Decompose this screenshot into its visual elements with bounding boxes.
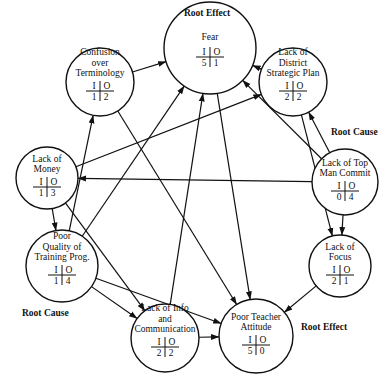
- io-header-in: I: [202, 47, 205, 57]
- node-info: Lack of InfoandCommunicationIO22: [131, 303, 199, 372]
- edge-money-to-training: [52, 209, 56, 231]
- node-label: Lack of: [325, 242, 355, 252]
- nodes-layer: FearIO51ConfusionoverTerminologyIO12Lack…: [16, 2, 378, 373]
- io-header-in: I: [54, 265, 57, 275]
- node-label: Poor: [53, 231, 72, 241]
- out-count: 1: [344, 276, 349, 286]
- interrelationship-digraph: FearIO51ConfusionoverTerminologyIO12Lack…: [0, 0, 390, 376]
- out-count: 3: [51, 188, 56, 198]
- edge-confusion-to-teacher: [118, 111, 237, 304]
- node-training: PoorQuality ofTraining Prog.IO14: [26, 230, 98, 302]
- node-label: Money: [34, 164, 61, 174]
- io-header-out: O: [66, 265, 73, 275]
- node-label: and: [158, 314, 172, 324]
- io-header-out: O: [349, 181, 356, 191]
- io-header-in: I: [285, 81, 288, 91]
- io-header-out: O: [169, 337, 176, 347]
- annotation-root-effect-bottom: Root Effect: [301, 322, 348, 332]
- node-money: Lack ofMoneyIO13: [16, 147, 78, 209]
- io-header-out: O: [297, 81, 304, 91]
- node-confusion: ConfusionoverTerminologyIO12: [66, 47, 134, 116]
- in-count: 2: [332, 276, 337, 286]
- node-label: over: [92, 58, 110, 68]
- in-count: 0: [337, 192, 342, 202]
- io-header-in: I: [248, 335, 251, 345]
- node-top-man: Lack of TopMan CommitIO04: [312, 149, 378, 215]
- in-count: 2: [285, 92, 290, 102]
- edge-strategic-plan-to-fear: [253, 65, 262, 69]
- node-label: Lack of: [278, 47, 308, 57]
- out-count: 4: [66, 276, 71, 286]
- node-label: Lack of Top: [322, 158, 368, 168]
- annotation-root-cause-right: Root Cause: [331, 127, 378, 137]
- node-label: Fear: [202, 32, 220, 42]
- out-count: 1: [214, 58, 219, 68]
- node-label: Terminology: [76, 68, 125, 78]
- node-label: Training Prog.: [34, 252, 89, 262]
- node-label: Man Commit: [320, 168, 371, 178]
- node-label: Focus: [329, 252, 352, 262]
- in-count: 1: [39, 188, 44, 198]
- node-teacher: Poor TeacherAttitudeIO50: [219, 299, 293, 373]
- in-count: 5: [202, 58, 207, 68]
- edge-confusion-to-fear: [132, 62, 166, 72]
- in-count: 1: [54, 276, 59, 286]
- edge-info-to-fear: [170, 93, 203, 304]
- edge-top-man-to-strategic-plan: [309, 112, 330, 153]
- annotation-root-effect-top: Root Effect: [184, 8, 231, 18]
- in-count: 5: [248, 346, 253, 356]
- io-header-out: O: [260, 335, 267, 345]
- out-count: 4: [349, 192, 354, 202]
- edge-top-man-to-focus: [342, 215, 343, 235]
- node-label: Quality of: [43, 242, 83, 252]
- node-strategic-plan: Lack ofDistrictStrategic PlanIO22: [259, 47, 327, 116]
- io-header-in: I: [332, 265, 335, 275]
- node-label: Poor Teacher: [231, 312, 282, 322]
- node-label: Lack of Info: [141, 303, 189, 313]
- edge-top-man-to-money: [78, 178, 312, 181]
- out-count: 0: [260, 346, 265, 356]
- out-count: 2: [169, 348, 174, 358]
- io-header-out: O: [214, 47, 221, 57]
- io-header-in: I: [92, 81, 95, 91]
- io-header-out: O: [104, 81, 111, 91]
- out-count: 2: [104, 92, 109, 102]
- annotation-root-cause-left: Root Cause: [22, 308, 69, 318]
- node-focus: Lack ofFocusIO21: [309, 235, 371, 297]
- node-label: Communication: [134, 324, 195, 334]
- node-label: Lack of: [32, 154, 62, 164]
- node-label: Attitude: [240, 322, 271, 332]
- node-label: District: [279, 58, 308, 68]
- io-header-in: I: [337, 181, 340, 191]
- io-header-out: O: [344, 265, 351, 275]
- in-count: 1: [92, 92, 97, 102]
- out-count: 2: [297, 92, 302, 102]
- edge-fear-to-teacher: [217, 93, 250, 299]
- io-header-in: I: [157, 337, 160, 347]
- io-header-out: O: [51, 177, 58, 187]
- edge-focus-to-teacher: [284, 286, 316, 312]
- io-header-in: I: [39, 177, 42, 187]
- node-label: Confusion: [80, 47, 120, 57]
- in-count: 2: [157, 348, 162, 358]
- node-label: Strategic Plan: [266, 68, 319, 78]
